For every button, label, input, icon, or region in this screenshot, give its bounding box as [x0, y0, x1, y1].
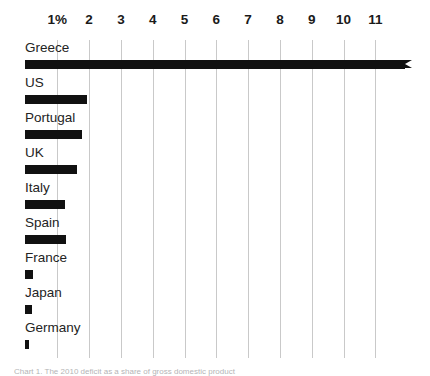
bar-container [25, 270, 33, 279]
bar [25, 340, 29, 349]
chart-row: US [0, 75, 430, 110]
x-tick-label: 9 [308, 12, 316, 27]
x-tick-label: 11 [368, 12, 382, 27]
chart-row: France [0, 250, 430, 285]
bar-container [25, 200, 65, 209]
x-tick-label: 2 [85, 12, 93, 27]
x-tick-label: 6 [213, 12, 221, 27]
category-label: UK [25, 145, 44, 161]
chart-row: Greece [0, 40, 430, 75]
category-label: Germany [25, 320, 81, 336]
category-label: Portugal [25, 110, 75, 126]
bar-container [25, 305, 32, 314]
category-label: Japan [25, 285, 62, 301]
x-tick-label: 3 [117, 12, 125, 27]
x-axis-tick-labels: 1%234567891011 [0, 12, 430, 32]
category-label: Italy [25, 180, 50, 196]
x-tick-label: 7 [244, 12, 252, 27]
category-label: France [25, 250, 67, 266]
bar [25, 95, 87, 104]
chart-row: Portugal [0, 110, 430, 145]
chart-row: Germany [0, 320, 430, 355]
category-label: Greece [25, 40, 69, 56]
x-tick-label: 4 [149, 12, 157, 27]
x-tick-label: 1% [48, 12, 68, 27]
bar-container [25, 95, 87, 104]
chart-row: Spain [0, 215, 430, 250]
chart-row: Italy [0, 180, 430, 215]
category-label: US [25, 75, 44, 91]
bar-container [25, 60, 405, 69]
bar [25, 235, 66, 244]
category-label: Spain [25, 215, 60, 231]
x-tick-label: 8 [276, 12, 284, 27]
bar [25, 60, 405, 69]
bar [25, 165, 77, 174]
bar-container [25, 340, 29, 349]
plot-area: GreeceUSPortugalUKItalySpainFranceJapanG… [0, 40, 430, 358]
bar [25, 305, 32, 314]
chart-caption: Chart 1. The 2010 deficit as a share of … [14, 367, 414, 376]
bar [25, 200, 65, 209]
bar-container [25, 235, 66, 244]
chart-row: Japan [0, 285, 430, 320]
bar-chart: 1%234567891011 GreeceUSPortugalUKItalySp… [0, 0, 430, 376]
x-tick-label: 5 [181, 12, 189, 27]
chart-row: UK [0, 145, 430, 180]
bar-container [25, 165, 77, 174]
bar-container [25, 130, 82, 139]
x-tick-label: 10 [336, 12, 351, 27]
bar [25, 130, 82, 139]
bar [25, 270, 33, 279]
